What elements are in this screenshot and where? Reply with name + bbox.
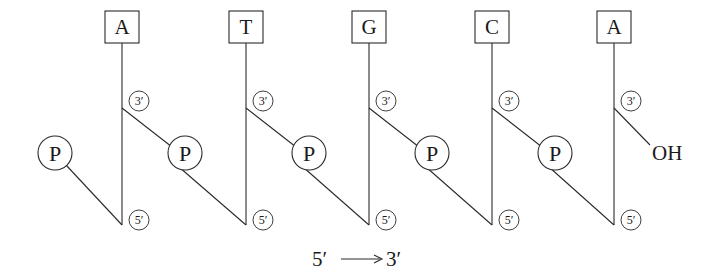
direction-indicator: 5′ 3′ — [312, 247, 401, 271]
five-prime-label: 5′ — [135, 213, 144, 227]
nucleotide-unit: G3′5′P — [352, 11, 492, 230]
dna-strand-diagram: A3′5′PT3′5′PG3′5′PC3′5′PA3′5′ P OH 5′ 3′ — [0, 0, 715, 278]
nucleotide-unit: A3′5′ — [597, 11, 641, 230]
nucleotide-unit: C3′5′P — [475, 11, 614, 230]
three-prime-label: 3′ — [382, 94, 391, 108]
five-prime-label: 5′ — [627, 213, 636, 227]
base-label: A — [606, 15, 622, 39]
direction-start-label: 5′ — [312, 247, 327, 271]
five-prime-label: 5′ — [505, 213, 514, 227]
phosphate-label: P — [426, 141, 438, 166]
five-prime-label: 5′ — [259, 213, 268, 227]
nucleotide-unit: T3′5′P — [229, 11, 369, 230]
leading-phosphate: P — [38, 136, 122, 225]
five-prime-label: 5′ — [382, 213, 391, 227]
direction-end-label: 3′ — [386, 247, 401, 271]
oh-label: OH — [652, 141, 682, 165]
three-prime-label: 3′ — [259, 94, 268, 108]
phosphate-label: P — [303, 141, 315, 166]
three-prime-label: 3′ — [135, 94, 144, 108]
phosphate-label: P — [49, 141, 61, 166]
base-label: A — [114, 15, 130, 39]
nucleotide-unit: A3′5′P — [105, 11, 246, 230]
base-label: G — [361, 15, 376, 39]
base-label: T — [240, 15, 253, 39]
three-prime-label: 3′ — [627, 94, 636, 108]
three-prime-label: 3′ — [505, 94, 514, 108]
phosphate-label: P — [549, 141, 561, 166]
base-label: C — [485, 15, 499, 39]
phosphate-label: P — [179, 141, 191, 166]
terminal-hydroxyl: OH — [614, 108, 682, 165]
